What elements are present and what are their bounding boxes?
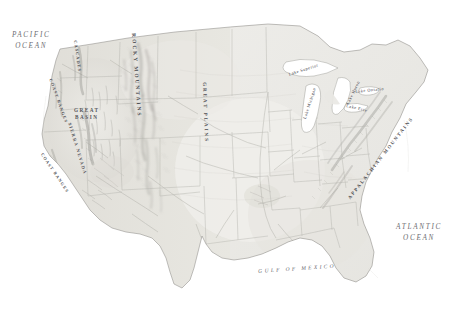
relief-ozarks: [244, 184, 280, 208]
pacific-ocean-line1: PACIFIC: [12, 30, 51, 41]
great-basin-line2: BASIN: [74, 114, 100, 121]
atlantic-ocean-line2: OCEAN: [396, 233, 442, 244]
map-canvas: PACIFICOCEANATLANTICOCEANGREATBASINROCKY…: [0, 0, 459, 316]
pacific-ocean-line2: OCEAN: [12, 41, 51, 52]
atlantic-ocean: ATLANTICOCEAN: [396, 222, 442, 244]
great-basin-line1: GREAT: [74, 107, 100, 114]
great-basin: GREATBASIN: [74, 107, 100, 121]
relief-map-graphic: [0, 0, 459, 316]
atlantic-ocean-line1: ATLANTIC: [396, 222, 442, 233]
pacific-ocean: PACIFICOCEAN: [12, 30, 51, 52]
